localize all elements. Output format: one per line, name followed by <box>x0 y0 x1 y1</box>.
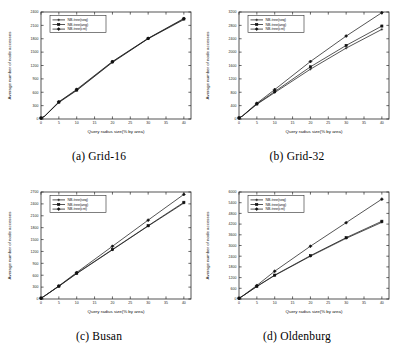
x-tick-label: 10 <box>75 121 79 125</box>
x-tick-label: 25 <box>128 121 132 125</box>
data-point <box>256 23 258 25</box>
legend-label-NB-tree(ang): NB-tree(ang) <box>266 203 287 207</box>
x-tick-label: 0 <box>40 301 42 305</box>
series-line-NB-tree(seq) <box>239 222 382 298</box>
y-tick-label: 1200 <box>31 64 39 68</box>
x-axis-title: Query radius size(% by area) <box>286 309 343 314</box>
y-axis-title: Average number of node accesses <box>7 31 12 100</box>
data-point <box>111 248 113 250</box>
y-tick-label: 3000 <box>229 244 237 248</box>
chart-grid-32: 0400800120016002000240028003200051015202… <box>198 0 396 152</box>
y-tick-label: 0 <box>234 297 236 301</box>
x-tick-label: 15 <box>93 301 97 305</box>
legend-label-NB-tree(seq): NB-tree(seq) <box>266 18 287 22</box>
y-tick-label: 4200 <box>229 222 237 226</box>
x-tick-label: 40 <box>182 121 186 125</box>
x-tick-label: 15 <box>291 121 295 125</box>
y-tick-label: 600 <box>231 287 237 291</box>
subfigure-oldenburg: 0600120018002400300036004200480054006000… <box>198 180 396 359</box>
data-point <box>345 237 347 239</box>
y-tick-label: 0 <box>234 117 236 121</box>
y-tick-label: 2100 <box>31 24 39 28</box>
data-point <box>58 203 60 205</box>
data-point <box>309 255 311 257</box>
x-tick-label: 5 <box>256 121 258 125</box>
legend-label-NB-tree(seq): NB-tree(seq) <box>266 198 287 202</box>
y-axis-title: Average number of node accesses <box>205 211 210 280</box>
chart-svg-grid-16: 0300600900120015001800210024000510152025… <box>0 0 198 152</box>
y-tick-label: 2400 <box>31 202 39 206</box>
x-axis-title: Query radius size(% by area) <box>286 129 343 134</box>
y-tick-label: 2400 <box>229 255 237 259</box>
subfigure-busan: 0300600900120015001800210024002700051015… <box>0 180 198 359</box>
data-point <box>58 23 60 25</box>
x-tick-label: 0 <box>238 301 240 305</box>
data-point <box>274 274 276 276</box>
y-tick-label: 900 <box>33 262 39 266</box>
data-point <box>147 225 149 227</box>
y-tick-label: 900 <box>33 77 39 81</box>
y-tick-label: 2800 <box>229 24 237 28</box>
x-tick-label: 30 <box>344 301 348 305</box>
legend-label-NB-tree(cnt): NB-tree(cnt) <box>266 27 286 31</box>
y-tick-label: 3200 <box>229 10 237 14</box>
y-tick-label: 3600 <box>229 233 237 237</box>
y-tick-label: 1200 <box>229 276 237 280</box>
caption-oldenburg: (d) Oldenburg <box>198 330 396 342</box>
data-point <box>309 66 311 68</box>
y-tick-label: 1200 <box>31 250 39 254</box>
y-tick-label: 2400 <box>229 37 237 41</box>
series-line-NB-tree(ang) <box>41 19 184 118</box>
x-axis-title: Query radius size(% by area) <box>88 129 145 134</box>
x-tick-label: 20 <box>110 301 114 305</box>
x-tick-label: 25 <box>128 301 132 305</box>
y-tick-label: 300 <box>33 285 39 289</box>
caption-grid-32: (b) Grid-32 <box>198 150 396 162</box>
y-tick-label: 0 <box>36 117 38 121</box>
y-tick-label: 2100 <box>31 214 39 218</box>
legend-label-NB-tree(ang): NB-tree(ang) <box>266 23 287 27</box>
legend-label-NB-tree(cnt): NB-tree(cnt) <box>68 27 88 31</box>
y-tick-label: 1800 <box>229 265 237 269</box>
x-tick-label: 35 <box>164 121 168 125</box>
x-tick-label: 30 <box>146 121 150 125</box>
x-tick-label: 25 <box>326 301 330 305</box>
chart-svg-busan: 0300600900120015001800210024002700051015… <box>0 180 198 332</box>
chart-grid-16: 0300600900120015001800210024000510152025… <box>0 0 198 152</box>
y-tick-label: 1800 <box>31 226 39 230</box>
y-tick-label: 2400 <box>31 10 39 14</box>
x-tick-label: 5 <box>58 121 60 125</box>
y-tick-label: 6000 <box>229 190 237 194</box>
y-tick-label: 1200 <box>229 77 237 81</box>
y-tick-label: 300 <box>33 104 39 108</box>
x-tick-label: 0 <box>238 121 240 125</box>
data-point <box>345 44 347 46</box>
x-tick-label: 5 <box>256 301 258 305</box>
x-tick-label: 40 <box>182 301 186 305</box>
y-tick-label: 800 <box>231 91 237 95</box>
y-tick-label: 0 <box>36 297 38 301</box>
y-tick-label: 1500 <box>31 50 39 54</box>
data-point <box>381 28 384 31</box>
x-tick-label: 35 <box>164 301 168 305</box>
x-tick-label: 30 <box>344 121 348 125</box>
y-axis-title: Average number of node accesses <box>7 211 12 280</box>
data-point <box>381 220 383 222</box>
subfigure-grid-16: 0300600900120015001800210024000510152025… <box>0 0 198 179</box>
data-point <box>381 25 383 27</box>
subfigure-grid-32: 0400800120016002000240028003200051015202… <box>198 0 396 179</box>
series-line-NB-tree(ang) <box>239 221 382 298</box>
y-tick-label: 4800 <box>229 212 237 216</box>
x-axis-title: Query radius size(% by area) <box>88 309 145 314</box>
y-tick-label: 400 <box>231 104 237 108</box>
x-tick-label: 40 <box>380 301 384 305</box>
x-tick-label: 35 <box>362 121 366 125</box>
y-tick-label: 1600 <box>229 64 237 68</box>
y-tick-label: 600 <box>33 91 39 95</box>
y-axis-title: Average number of node accesses <box>205 31 210 100</box>
y-tick-label: 1800 <box>31 37 39 41</box>
y-tick-label: 600 <box>33 274 39 278</box>
series-line-NB-tree(cnt) <box>41 18 184 118</box>
legend-label-NB-tree(cnt): NB-tree(cnt) <box>68 207 88 211</box>
series-line-NB-tree(seq) <box>239 29 382 118</box>
